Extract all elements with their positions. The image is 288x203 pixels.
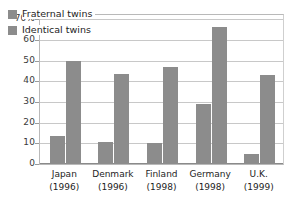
x-tick-year: (1998) (137, 181, 186, 194)
x-tick-label-germany: Germany(1998) (186, 168, 235, 193)
legend-item-identical: Identical twins (8, 22, 95, 38)
x-tick-country: Denmark (89, 168, 138, 181)
bar-germany-identical (212, 27, 227, 164)
x-tick-country: U.K. (234, 168, 283, 181)
x-tick-label-finland: Finland(1998) (137, 168, 186, 193)
y-tick-label-30: 30 (0, 97, 35, 106)
y-tick-label-0: 0 (0, 159, 35, 168)
bar-japan-identical (66, 61, 81, 164)
bar-denmark-identical (114, 74, 129, 164)
x-tick-year: (1996) (40, 181, 89, 194)
x-tick-label-japan: Japan(1996) (40, 168, 89, 193)
bar-germany-fraternal (196, 104, 211, 164)
x-tick-year: (1998) (186, 181, 235, 194)
x-tick-year: (1996) (89, 181, 138, 194)
bar-denmark-fraternal (98, 142, 113, 164)
bar-japan-fraternal (50, 136, 65, 164)
chart-figure: 010203040506070% Fraternal twins Identic… (0, 0, 288, 203)
y-tick-label-50: 50 (0, 56, 35, 65)
x-tick-country: Finland (137, 168, 186, 181)
legend-swatch-icon (8, 10, 17, 19)
bar-uk-fraternal (244, 154, 259, 164)
x-tick-country: Japan (40, 168, 89, 181)
chart-legend: Fraternal twins Identical twins (8, 6, 95, 38)
legend-label-identical: Identical twins (22, 25, 94, 35)
x-tick-label-uk: U.K.(1999) (234, 168, 283, 193)
x-tick-country: Germany (186, 168, 235, 181)
bar-finland-identical (163, 67, 178, 164)
legend-label-fraternal: Fraternal twins (22, 9, 95, 19)
bar-uk-identical (260, 75, 275, 164)
legend-swatch-icon (8, 26, 17, 35)
bar-finland-fraternal (147, 143, 162, 164)
y-tick-label-10: 10 (0, 138, 35, 147)
x-tick-label-denmark: Denmark(1996) (89, 168, 138, 193)
legend-item-fraternal: Fraternal twins (8, 6, 95, 22)
x-tick-year: (1999) (234, 181, 283, 194)
gridline-60 (40, 40, 283, 41)
y-tick-label-20: 20 (0, 118, 35, 127)
y-tick-label-40: 40 (0, 76, 35, 85)
